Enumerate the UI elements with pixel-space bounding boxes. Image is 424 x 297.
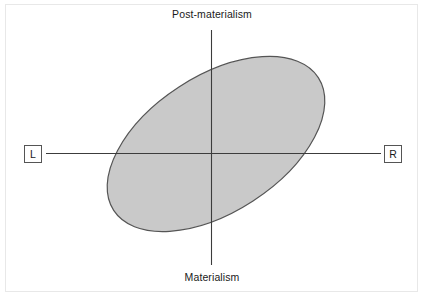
opinion-distribution-ellipse: [77, 21, 356, 268]
axis-pole-left: L: [24, 145, 42, 163]
diagram-canvas: [0, 0, 424, 297]
axis-label-materialism: Materialism: [0, 271, 424, 283]
political-space-diagram: Post-materialism Materialism L R: [0, 0, 424, 297]
axis-label-post-materialism: Post-materialism: [0, 8, 424, 20]
axis-pole-right: R: [384, 145, 402, 163]
